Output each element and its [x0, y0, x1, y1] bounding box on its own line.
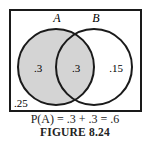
region-a-and-b-value: .3	[72, 62, 81, 74]
set-b-label: B	[92, 11, 100, 25]
region-neither-value: .25	[14, 97, 28, 109]
venn-diagram: A B .3 .3 .15 .25	[0, 0, 150, 112]
region-b-only-value: .15	[109, 62, 123, 74]
set-a-label: A	[52, 11, 61, 25]
region-a-only-value: .3	[34, 62, 43, 74]
probability-formula: P(A) = .3 + .3 = .6	[0, 112, 150, 127]
figure-caption: FIGURE 8.24	[0, 126, 150, 138]
